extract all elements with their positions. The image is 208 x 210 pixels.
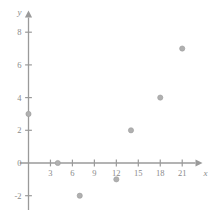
x-axis-ticks: 36912151821 [48, 160, 186, 178]
y-tick-label: 0 [17, 158, 21, 168]
data-point [77, 193, 82, 198]
data-point [128, 128, 133, 133]
x-tick-label: 12 [112, 168, 121, 178]
y-tick-label: 4 [17, 93, 22, 103]
x-tick-label: 18 [156, 168, 165, 178]
data-point [180, 46, 185, 51]
x-tick-label: 3 [48, 168, 52, 178]
x-axis-label: x [203, 168, 208, 178]
x-tick-label: 21 [178, 168, 187, 178]
y-tick-label: 2 [17, 125, 21, 135]
x-tick-label: 15 [134, 168, 143, 178]
x-tick-label: 9 [92, 168, 96, 178]
axis-names: xy [17, 7, 208, 178]
axes-group [20, 11, 203, 210]
data-point [55, 160, 60, 165]
x-axis-arrow-icon [196, 159, 203, 166]
data-point [26, 111, 31, 116]
x-tick-label: 6 [70, 168, 74, 178]
data-point [158, 95, 163, 100]
data-point [114, 177, 119, 182]
scatter-plot-figure: 36912151821 -202468 xy [0, 0, 208, 210]
y-axis-label: y [17, 7, 22, 17]
y-tick-label: 8 [17, 27, 21, 37]
y-tick-label: -2 [14, 191, 21, 201]
y-tick-label: 6 [17, 60, 21, 70]
chart-canvas: 36912151821 -202468 xy [0, 0, 208, 210]
y-axis-arrow-icon [25, 11, 32, 18]
